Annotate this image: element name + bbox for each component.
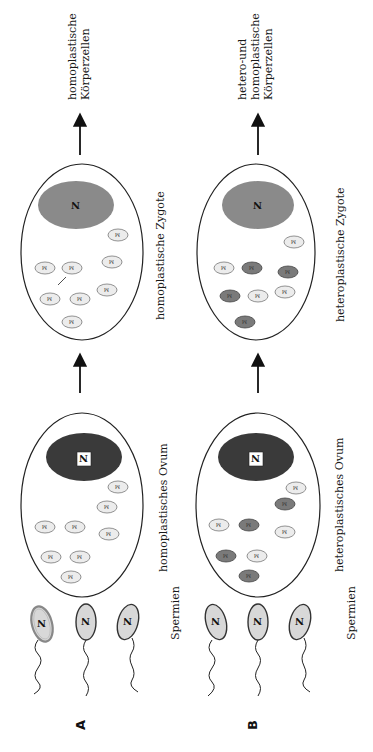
ovum-label-a: homoplastisches Ovum: [157, 443, 170, 572]
mitochondrion-label: M: [104, 504, 109, 510]
mitochondrion-label: M: [246, 522, 251, 528]
mitochondrion-label: M: [115, 484, 120, 490]
mitochondrion-label: M: [254, 553, 259, 559]
svg-text:N: N: [251, 453, 260, 464]
ovum-b: N MMMMMMMM: [196, 413, 320, 597]
sperm-cell: N: [76, 604, 96, 696]
mitochondrion-label: M: [77, 554, 82, 560]
sperm-cell: N: [114, 602, 143, 692]
sperm-label-b: Spermien: [345, 586, 358, 640]
sperm-cell: N: [286, 602, 315, 692]
mitochondrion-label: M: [72, 524, 77, 530]
svg-text:N: N: [253, 616, 262, 627]
mitochondrion-label: M: [68, 574, 73, 580]
svg-text:N: N: [295, 616, 304, 627]
mitochondrion-label: M: [77, 296, 82, 302]
zygote-label-a: homoplastische Zygote: [154, 191, 167, 320]
mitochondrion-label: M: [282, 529, 287, 535]
result-label-a-line1: homoplastische: [66, 13, 79, 100]
result-label-b-line3: Körperzellen: [262, 28, 275, 100]
svg-text:N: N: [37, 618, 46, 629]
mitochondrion-label: M: [69, 319, 74, 325]
zygote-b: N MMMMMMMM: [197, 164, 315, 340]
mitochondrion-label: M: [291, 239, 296, 245]
svg-text:N: N: [211, 616, 220, 627]
mitochondrion-label: M: [282, 289, 287, 295]
result-label-b-line2: homoplastische: [249, 13, 262, 100]
sperm-group-a: N N N: [28, 602, 143, 696]
mitochondrion-label: M: [242, 319, 247, 325]
mitochondrion-label: M: [227, 293, 232, 299]
mitochondrion-label: M: [293, 485, 298, 491]
svg-text:N: N: [71, 200, 80, 211]
diagram-figure: A N N N Spermien: [0, 0, 373, 752]
sperm-cell: N: [248, 604, 268, 696]
mitochondrion-label: M: [115, 232, 120, 238]
svg-text:N: N: [253, 200, 262, 211]
mitochondrion-label: M: [47, 296, 52, 302]
mitochondrion-label: M: [106, 531, 111, 537]
sperm-cell: N: [202, 602, 231, 696]
mitochondrion-label: M: [104, 287, 109, 293]
ovum-a: N MMMMMMMM: [21, 413, 143, 597]
row-a: A N N N Spermien: [21, 13, 182, 730]
mitochondrion-label: M: [282, 501, 287, 507]
zygote-label-b: heteroplastische Zygote: [334, 188, 347, 322]
sperm-group-b: N N N: [202, 602, 315, 696]
ovum-label-b: heteroplastisches Ovum: [333, 437, 346, 572]
mitochondrion-label: M: [221, 265, 226, 271]
row-label-b: B: [245, 720, 260, 730]
result-label-a-line2: Körperzellen: [79, 28, 92, 100]
svg-text:N: N: [79, 453, 88, 464]
sperm-label-a: Spermien: [169, 586, 182, 640]
sperm-cell: N: [28, 604, 57, 694]
mitochondrion-label: M: [255, 293, 260, 299]
row-b: B N N N Spermien N: [196, 13, 358, 730]
svg-text:N: N: [123, 616, 132, 627]
mitochondrion-label: M: [42, 265, 47, 271]
svg-text:N: N: [81, 616, 90, 627]
mitochondrion-label: M: [216, 522, 221, 528]
mitochondrion-label: M: [246, 573, 251, 579]
mitochondrion-label: M: [48, 554, 53, 560]
mitochondrion-label: M: [42, 524, 47, 530]
row-label-a: A: [73, 720, 88, 730]
mitochondrion-label: M: [69, 265, 74, 271]
result-label-b-line1: hetero-und: [236, 39, 249, 100]
mitochondrion-label: M: [223, 553, 228, 559]
mitochondrion-label: M: [285, 269, 290, 275]
mitochondrion-label: M: [109, 259, 114, 265]
mitochondrion-label: M: [249, 265, 254, 271]
zygote-a: N MMMMMMMM: [21, 164, 143, 340]
